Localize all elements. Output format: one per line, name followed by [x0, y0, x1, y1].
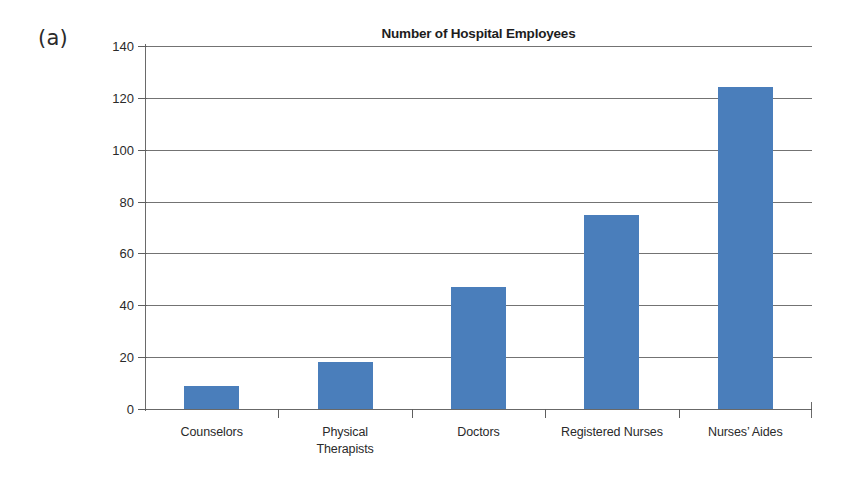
category-label-line: Registered Nurses: [561, 425, 663, 439]
chart-title: Number of Hospital Employees: [145, 26, 812, 41]
y-axis-tick-label: 140: [92, 39, 134, 54]
x-axis-tick: [412, 409, 413, 418]
y-axis-tick-label: 40: [92, 298, 134, 313]
gridline: [145, 253, 812, 254]
gridline: [145, 98, 812, 99]
y-axis-tick-label: 100: [92, 142, 134, 157]
y-axis-tick-label: 120: [92, 90, 134, 105]
category-label-line: Physical: [322, 425, 368, 439]
bar: [184, 386, 239, 409]
x-axis-tick: [545, 409, 546, 418]
y-axis-tick-label: 20: [92, 350, 134, 365]
x-axis-category-label: Nurses’ Aides: [679, 424, 812, 441]
axis-baseline: [145, 409, 812, 410]
bar: [718, 87, 773, 409]
category-label-line: Therapists: [278, 441, 411, 458]
gridline: [145, 202, 812, 203]
y-axis-tick-label: 60: [92, 246, 134, 261]
y-axis-tick: [138, 305, 147, 306]
category-label-line: Nurses’ Aides: [708, 425, 783, 439]
x-axis-category-label: Registered Nurses: [545, 424, 678, 441]
y-axis-tick: [138, 46, 147, 47]
y-axis-tick: [138, 98, 147, 99]
x-axis-category-label: Doctors: [412, 424, 545, 441]
bar: [451, 287, 506, 409]
x-axis-tick: [278, 409, 279, 418]
plot-area: [145, 46, 812, 409]
bar: [584, 215, 639, 409]
gridline: [145, 46, 812, 47]
bar: [318, 362, 373, 409]
y-axis-tick: [138, 202, 147, 203]
y-axis-tick: [138, 253, 147, 254]
y-axis-tick: [138, 150, 147, 151]
y-axis-tick: [138, 409, 147, 410]
x-axis-category-label: Counselors: [145, 424, 278, 441]
y-axis-tick-label: 80: [92, 194, 134, 209]
category-label-line: Counselors: [181, 425, 243, 439]
bar-chart: Number of Hospital Employees 02040608010…: [0, 0, 848, 478]
x-axis-tick: [679, 409, 680, 418]
y-axis-tick-label: 0: [92, 402, 134, 417]
y-axis-tick-labels: 020406080100120140: [88, 0, 134, 478]
y-axis-tick: [138, 357, 147, 358]
x-axis-category-label: PhysicalTherapists: [278, 424, 411, 458]
category-label-line: Doctors: [457, 425, 499, 439]
gridline: [145, 150, 812, 151]
